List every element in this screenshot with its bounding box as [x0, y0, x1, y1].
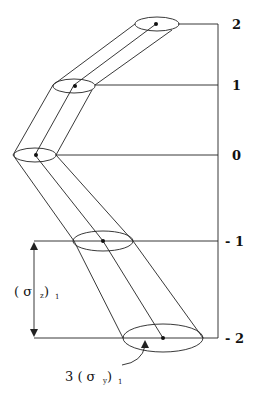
center-dot-neg2 — [161, 336, 165, 340]
svg-text:1: 1 — [55, 293, 59, 301]
svg-text:( σ: ( σ — [14, 284, 32, 299]
level-label-neg2: - 2 — [225, 331, 244, 346]
center-dot-neg1 — [101, 239, 105, 243]
level-label-2: 2 — [232, 17, 241, 32]
svg-text:3 ( σ: 3 ( σ — [65, 369, 96, 384]
arrowhead-curve-icon — [141, 340, 149, 348]
dispersion-diagram: 2 1 0 - 1 - 2 ( σ z ) 1 3 ( σ y ) 1 — [0, 0, 260, 401]
level-label-0: 0 — [232, 148, 241, 163]
center-dot-1 — [73, 84, 77, 88]
arrowhead-up-icon — [30, 242, 38, 250]
level-label-1: 1 — [232, 78, 241, 93]
svg-text:1: 1 — [118, 378, 122, 386]
sigma-z-label: ( σ z ) 1 — [14, 284, 59, 301]
svg-text:): ) — [44, 284, 49, 299]
sigma-y-label: 3 ( σ y ) 1 — [65, 369, 122, 386]
level-label-neg1: - 1 — [225, 234, 244, 249]
arrowhead-down-icon — [30, 329, 38, 337]
svg-text:): ) — [107, 369, 112, 384]
center-dot-0 — [34, 153, 38, 157]
sigma-y-arrow — [122, 346, 145, 365]
center-dot-2 — [154, 22, 158, 26]
